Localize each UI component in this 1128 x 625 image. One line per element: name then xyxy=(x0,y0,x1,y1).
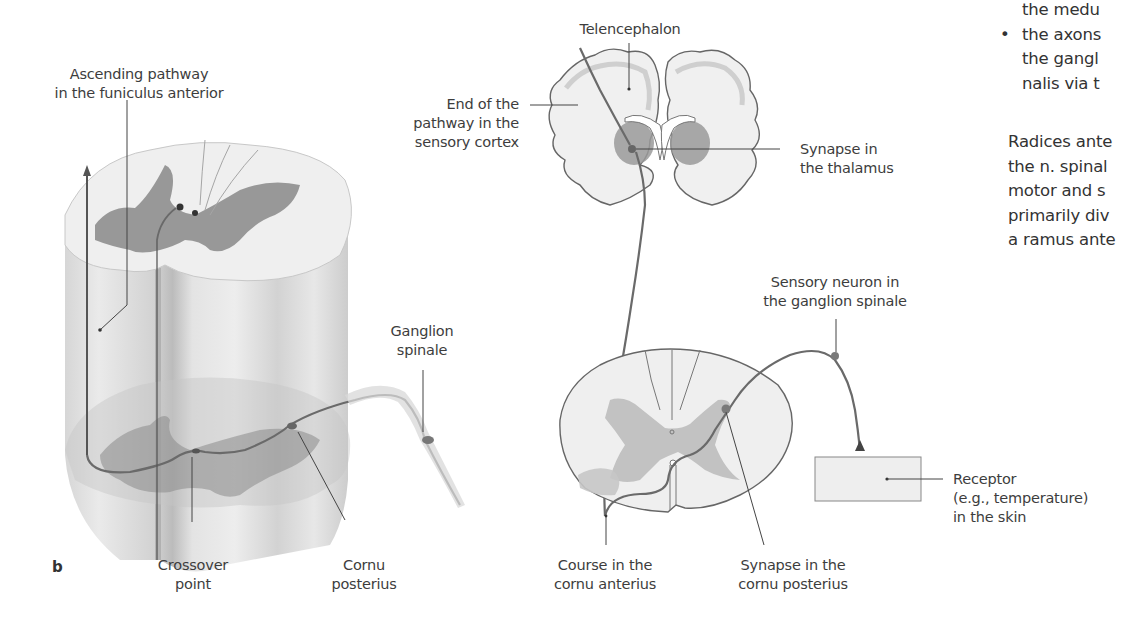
label-cornu-posterius: Cornu posterius xyxy=(314,556,414,594)
paragraph-line: Radices ante xyxy=(1008,130,1115,155)
body-line: the gangl xyxy=(1000,47,1101,72)
label-ganglion-spinale: Ganglion spinale xyxy=(377,322,467,360)
label-telencephalon: Telencephalon xyxy=(555,20,705,39)
paragraph-line: a ramus ante xyxy=(1008,228,1115,253)
label-sensory-neuron: Sensory neuron in the ganglion spinale xyxy=(745,273,925,311)
label-synapse-cornu-posterius: Synapse in the cornu posterius xyxy=(723,556,863,594)
label-ascending-pathway: Ascending pathway in the funiculus anter… xyxy=(34,65,244,103)
label-end-of-pathway: End of the pathway in the sensory cortex xyxy=(390,95,519,152)
label-crossover-point: Crossover point xyxy=(143,556,243,594)
bullet-icon: • xyxy=(1000,23,1022,48)
label-receptor: Receptor (e.g., temperature) in the skin xyxy=(953,470,1088,527)
panel-letter: b xyxy=(52,558,63,576)
body-line: the medu xyxy=(1000,0,1101,23)
label-synapse-thalamus: Synapse in the thalamus xyxy=(800,140,894,178)
spinal-cord-cross-section xyxy=(560,319,943,545)
paragraph-line: the n. spinal xyxy=(1008,155,1115,180)
body-line-bulleted: •the axons xyxy=(1000,23,1101,48)
body-line: nalis via t xyxy=(1000,72,1101,97)
paragraph-line: primarily div xyxy=(1008,204,1115,229)
paragraph-line: motor and s xyxy=(1008,179,1115,204)
body-text-paragraph: Radices ante the n. spinal motor and s p… xyxy=(1008,130,1115,253)
label-course-cornu-anterius: Course in the cornu anterius xyxy=(540,556,670,594)
body-text-bullets: the medu •the axons the gangl nalis via … xyxy=(1000,0,1101,96)
